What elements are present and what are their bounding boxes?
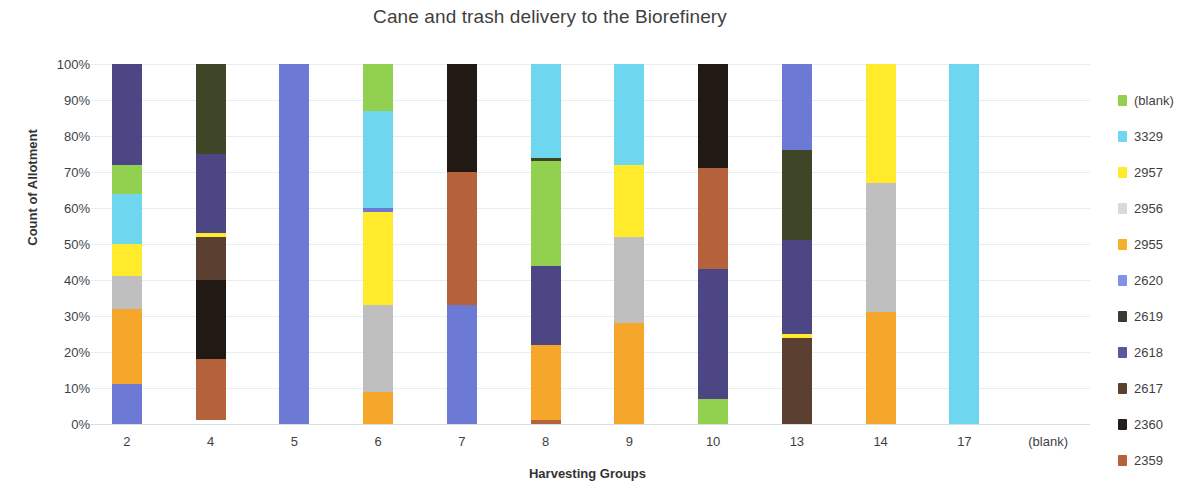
- bar-segment[interactable]: [112, 384, 142, 424]
- x-tick-label: 10: [706, 434, 720, 449]
- bar-segment[interactable]: [196, 154, 226, 233]
- x-tick-label: 4: [207, 434, 214, 449]
- legend-item[interactable]: 2359: [1118, 442, 1193, 478]
- legend-item[interactable]: 2955: [1118, 226, 1193, 262]
- bar-segment[interactable]: [196, 237, 226, 280]
- bar-segment[interactable]: [447, 172, 477, 305]
- bar-group[interactable]: [588, 64, 672, 424]
- x-tick-label: 9: [626, 434, 633, 449]
- bar-segment[interactable]: [866, 183, 896, 313]
- bar-segment[interactable]: [112, 64, 142, 165]
- x-tick-label: 17: [957, 434, 971, 449]
- bar-group[interactable]: [1006, 64, 1090, 424]
- bar-segment[interactable]: [196, 233, 226, 237]
- legend-item[interactable]: (blank): [1118, 82, 1193, 118]
- legend-item[interactable]: 2619: [1118, 298, 1193, 334]
- bar-segment[interactable]: [782, 334, 812, 338]
- stacked-bar[interactable]: [866, 64, 896, 424]
- legend-label: 2619: [1134, 309, 1163, 324]
- legend-item[interactable]: 3329: [1118, 118, 1193, 154]
- bar-segment[interactable]: [279, 64, 309, 424]
- y-tick-mark: [79, 352, 85, 353]
- legend-item[interactable]: 2956: [1118, 190, 1193, 226]
- stacked-bar[interactable]: [279, 64, 309, 424]
- bar-segment[interactable]: [698, 269, 728, 399]
- bar-segment[interactable]: [363, 305, 393, 391]
- bar-segment[interactable]: [531, 161, 561, 265]
- bar-group[interactable]: [923, 64, 1007, 424]
- bar-segment[interactable]: [698, 399, 728, 424]
- bar-segment[interactable]: [363, 111, 393, 208]
- bar-segment[interactable]: [614, 165, 644, 237]
- legend-item[interactable]: 2360: [1118, 406, 1193, 442]
- bar-segment[interactable]: [447, 305, 477, 424]
- bar-segment[interactable]: [447, 64, 477, 172]
- bar-segment[interactable]: [112, 194, 142, 244]
- bar-segment[interactable]: [531, 158, 561, 162]
- stacked-bar[interactable]: [614, 64, 644, 424]
- bar-segment[interactable]: [782, 64, 812, 150]
- bar-segment[interactable]: [363, 64, 393, 111]
- y-tick-mark: [79, 424, 85, 425]
- legend-swatch-icon: [1118, 239, 1127, 250]
- y-tick-mark: [79, 244, 85, 245]
- bar-segment[interactable]: [614, 237, 644, 323]
- legend-item[interactable]: 2620: [1118, 262, 1193, 298]
- bar-group[interactable]: [420, 64, 504, 424]
- legend-label: (blank): [1134, 93, 1174, 108]
- legend-item[interactable]: 2617: [1118, 370, 1193, 406]
- bar-group[interactable]: [839, 64, 923, 424]
- bar-segment[interactable]: [782, 240, 812, 334]
- stacked-bar[interactable]: [1033, 64, 1063, 424]
- legend-label: 2617: [1134, 381, 1163, 396]
- bar-segment[interactable]: [112, 244, 142, 276]
- bar-group[interactable]: [504, 64, 588, 424]
- stacked-bar[interactable]: [112, 64, 142, 424]
- bar-group[interactable]: [85, 64, 169, 424]
- bar-segment[interactable]: [949, 64, 979, 424]
- gridline: [85, 424, 1090, 425]
- bar-segment[interactable]: [531, 64, 561, 158]
- stacked-bar[interactable]: [196, 64, 226, 424]
- legend-label: 2359: [1134, 453, 1163, 468]
- stacked-bar[interactable]: [782, 64, 812, 424]
- legend-swatch-icon: [1118, 419, 1127, 430]
- bar-group[interactable]: [169, 64, 253, 424]
- bar-segment[interactable]: [112, 165, 142, 194]
- bar-segment[interactable]: [531, 420, 561, 424]
- bar-segment[interactable]: [112, 276, 142, 308]
- legend-swatch-icon: [1118, 383, 1127, 394]
- legend-item[interactable]: 2957: [1118, 154, 1193, 190]
- bar-group[interactable]: [671, 64, 755, 424]
- bar-segment[interactable]: [614, 323, 644, 424]
- legend-item[interactable]: 2618: [1118, 334, 1193, 370]
- bar-segment[interactable]: [531, 266, 561, 345]
- stacked-bar[interactable]: [531, 64, 561, 424]
- bar-segment[interactable]: [866, 64, 896, 183]
- bar-segment[interactable]: [531, 345, 561, 421]
- bar-segment[interactable]: [196, 359, 226, 420]
- bar-segment[interactable]: [112, 309, 142, 385]
- bar-group[interactable]: [755, 64, 839, 424]
- bar-segment[interactable]: [363, 212, 393, 306]
- bar-segment[interactable]: [782, 150, 812, 240]
- stacked-bar[interactable]: [949, 64, 979, 424]
- stacked-bar[interactable]: [363, 64, 393, 424]
- bar-segment[interactable]: [698, 168, 728, 269]
- stacked-bar[interactable]: [698, 64, 728, 424]
- bar-group[interactable]: [253, 64, 337, 424]
- bar-segment[interactable]: [782, 338, 812, 424]
- bar-segment[interactable]: [363, 208, 393, 212]
- bar-group[interactable]: [336, 64, 420, 424]
- stacked-bar[interactable]: [447, 64, 477, 424]
- x-tick-label: 13: [790, 434, 804, 449]
- x-tick-label: 8: [542, 434, 549, 449]
- bar-segment[interactable]: [196, 280, 226, 359]
- bar-segment[interactable]: [614, 64, 644, 165]
- bar-segment[interactable]: [363, 392, 393, 424]
- x-tick-label: 6: [375, 434, 382, 449]
- chart-title: Cane and trash delivery to the Biorefine…: [0, 6, 1100, 28]
- bar-segment[interactable]: [866, 312, 896, 424]
- bar-segment[interactable]: [196, 64, 226, 154]
- bar-segment[interactable]: [698, 64, 728, 168]
